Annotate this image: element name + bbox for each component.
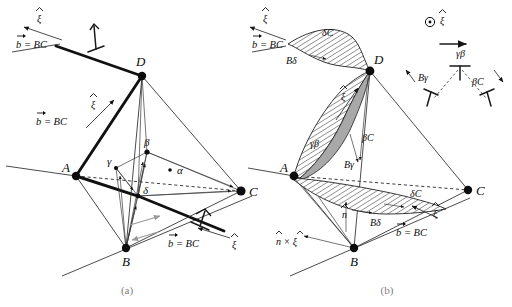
panel-a-burgers-text-3: b = BC — [168, 238, 200, 249]
panel-b-vertex-A-node — [290, 172, 299, 181]
dissociation-inset: ξ γβ Bγ — [406, 10, 503, 107]
panel-b-vertex-C-node — [464, 186, 472, 194]
panel-b-xi-text-2: ξ — [341, 91, 346, 103]
panel-a-label-B: B — [122, 254, 130, 269]
panel-b-n-cross-xi-label: n × ξ — [276, 231, 303, 248]
panel-b-burgers-label-upper-left: b = BC — [252, 34, 284, 50]
inset-left-dislocation-symbol — [424, 89, 438, 106]
panel-b-ribbon-label-Bdelta-top: Bδ — [286, 55, 297, 66]
arrow-B-to-beta — [126, 162, 143, 248]
panel-b-ribbon-label-betaC: βC — [361, 132, 374, 143]
panel-b-n-cross-xi-text: n × ξ — [276, 236, 298, 248]
panel-a-label-C: C — [249, 184, 258, 199]
inset-split-line-left — [434, 70, 458, 98]
panel-a-burgers-text-2: b = BC — [36, 116, 68, 127]
panel-a-burgers-text-1: b = BC — [16, 39, 48, 50]
panel-a-label-A: A — [61, 160, 70, 175]
caption-panel-b: (b) — [381, 284, 394, 297]
arrow-B-to-delta — [126, 206, 136, 248]
panel-a-xi-label-mid-left: ξ — [90, 94, 97, 112]
vertex-D-node — [138, 72, 146, 80]
panel-b-burgers-text-1: b = BC — [252, 39, 284, 50]
panel-b-geometry: A B C D δC Bδ γβ Bγ βC δC Bδ b = BC b = … — [248, 8, 503, 277]
inner-vertex-gamma-node — [114, 166, 118, 170]
panel-a-label-alpha: α — [177, 164, 183, 176]
panel-a-xi-label-upper-left: ξ — [36, 8, 43, 26]
panel-b-xi-text-3: ξ — [433, 208, 438, 220]
panel-b-label-D: D — [373, 52, 384, 67]
inset-left-partial-label: Bγ — [418, 72, 429, 83]
panel-a-xi-text-1: ξ — [37, 13, 42, 25]
dislocation-diagram: A B C D α β γ δ b = BC b = BC b = BC — [0, 0, 512, 307]
panel-a-label-D: D — [135, 54, 146, 69]
arrow-delta-to-C — [138, 191, 231, 196]
screw-direction-dot-icon — [429, 21, 432, 24]
arrow-beta-to-C — [147, 152, 233, 187]
panel-b-ribbon-label-deltaC-top: δC — [322, 27, 334, 38]
inset-right-partial-label: βC — [471, 76, 484, 87]
caption-panel-a: (a) — [121, 284, 134, 297]
thick-line-upperleft-to-D — [56, 46, 142, 76]
panel-a-burgers-label-lower-right: b = BC — [168, 233, 200, 249]
panel-b-vertex-B-node — [350, 244, 358, 252]
panel-b-label-B: B — [350, 254, 358, 269]
inner-vertex-alpha-node — [168, 168, 172, 172]
panel-b-label-C: C — [476, 183, 485, 198]
inset-left-partial-arrow — [406, 70, 415, 82]
vertex-B-node — [122, 244, 130, 252]
inset-parent-dislocation-symbol — [450, 66, 470, 80]
inset-parent-label: γβ — [456, 48, 465, 59]
gray-arrow-upper — [130, 216, 160, 225]
inset-right-partial-arrow — [494, 70, 503, 82]
panel-b-edge-D-C — [370, 71, 468, 190]
panel-a-burgers-label-upper-left: b = BC — [16, 34, 48, 50]
panel-b-ad-ribbon-leader-Bgamma — [350, 134, 358, 162]
panel-b-xi-label-upper-left: ξ — [262, 8, 269, 26]
panel-b-ad-fault-ribbon-hatched — [294, 71, 370, 178]
panel-b-burgers-text-2: b = BC — [396, 227, 428, 238]
panel-a-burgers-label-mid-left: b = BC — [36, 111, 68, 127]
dislocation-symbol-upper-left — [88, 24, 104, 52]
arrow-B-to-gamma — [120, 176, 126, 248]
panel-b-burgers-label-lower-right: b = BC — [396, 222, 428, 238]
panel-b-ribbon-label-deltaC-bot: δC — [410, 188, 422, 199]
panel-b-xi-text-1: ξ — [263, 13, 268, 25]
inner-vertex-beta-node — [144, 149, 149, 154]
panel-b-bottom-fault-ribbon — [294, 178, 446, 214]
edge-D-C — [142, 76, 241, 191]
panel-b-ribbon-label-Bgamma: Bγ — [344, 159, 355, 170]
panel-a-label-gamma: γ — [107, 155, 112, 167]
panel-a-geometry: A B C D α β γ δ b = BC b = BC b = BC — [6, 8, 258, 277]
inset-screw-label: ξ — [440, 15, 445, 27]
inner-vertex-delta-node — [136, 194, 141, 199]
panel-a-label-delta: δ — [143, 184, 149, 196]
panel-a-xi-text-2: ξ — [91, 99, 96, 111]
panel-a-xi-label-lower-right: ξ — [231, 234, 238, 252]
panel-b-ribbon-label-Bdelta-bot: Bδ — [370, 217, 381, 228]
vertex-C-node — [236, 186, 245, 195]
vertex-A-node — [72, 172, 80, 180]
figure-root: A B C D α β γ δ b = BC b = BC b = BC — [0, 0, 512, 307]
xi-arrow-lower-right — [198, 228, 230, 238]
panel-b-label-A: A — [279, 160, 288, 175]
panel-b-n-cross-xi-arrow — [304, 236, 354, 248]
panel-b-normal-text: n — [342, 209, 347, 220]
panel-a-xi-text-3: ξ — [232, 239, 237, 251]
panel-b-vertex-D-node — [366, 67, 375, 76]
inset-right-dislocation-symbol — [480, 89, 494, 106]
panel-b-ribbon-label-gammabeta: γβ — [310, 138, 319, 149]
panel-a-label-beta: β — [143, 136, 150, 148]
